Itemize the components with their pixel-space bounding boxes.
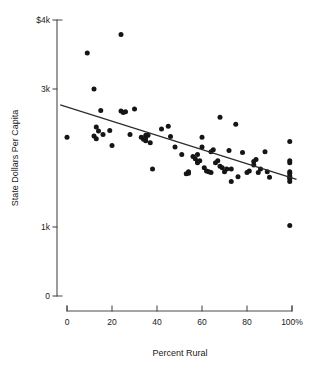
data-point: [159, 127, 164, 132]
x-tick-group: [67, 306, 292, 311]
data-points-layer: [65, 32, 293, 228]
data-point: [92, 87, 97, 92]
data-point: [110, 143, 115, 148]
x-axis: 020406080100%: [65, 306, 304, 327]
x-tick-label: 80: [242, 317, 252, 327]
data-point: [128, 132, 133, 137]
data-point: [287, 160, 292, 165]
data-point: [218, 115, 223, 120]
data-point: [101, 132, 106, 137]
y-tick-label: 1k: [41, 222, 51, 232]
x-tick-label: 20: [107, 317, 117, 327]
data-point: [173, 144, 178, 149]
data-point: [211, 147, 216, 152]
data-point: [107, 128, 112, 133]
data-point: [143, 138, 148, 143]
data-point: [150, 167, 155, 172]
y-axis: 01k3k$4k: [36, 15, 62, 301]
y-axis-title: State Dollars Per Capita: [10, 110, 20, 207]
y-tick-label: 0: [45, 291, 50, 301]
data-point: [123, 109, 128, 114]
data-point: [98, 108, 103, 113]
x-tick-labels: 020406080100%: [65, 317, 304, 327]
data-point: [195, 152, 200, 157]
data-point: [119, 32, 124, 37]
data-point: [179, 152, 184, 157]
data-point: [168, 134, 173, 139]
y-axis-line: [57, 20, 62, 296]
data-point: [186, 171, 191, 176]
trend-line: [60, 105, 296, 180]
y-tick-group: [53, 20, 57, 296]
data-point: [215, 158, 220, 163]
data-point: [287, 139, 292, 144]
data-point: [65, 135, 70, 140]
x-tick-label: 0: [65, 317, 70, 327]
x-axis-line: [67, 306, 292, 311]
x-tick-label: 60: [197, 317, 207, 327]
data-point: [287, 223, 292, 228]
data-point: [132, 107, 137, 112]
scatter-chart: 01k3k$4k 020406080100% Percent Rural Sta…: [0, 0, 314, 375]
data-point: [224, 167, 229, 172]
data-point: [287, 179, 292, 184]
y-tick-labels: 01k3k$4k: [36, 15, 50, 301]
x-axis-title: Percent Rural: [152, 348, 207, 358]
y-tick-label: 3k: [41, 84, 51, 94]
data-point: [247, 169, 252, 174]
data-point: [96, 129, 101, 134]
data-point: [254, 157, 259, 162]
data-point: [148, 140, 153, 145]
x-tick-label: 40: [152, 317, 162, 327]
data-point: [227, 148, 232, 153]
data-point: [233, 122, 238, 127]
data-point: [200, 135, 205, 140]
data-point: [94, 136, 99, 141]
y-tick-label: $4k: [36, 15, 50, 25]
data-point: [229, 179, 234, 184]
data-point: [166, 124, 171, 129]
data-point: [236, 174, 241, 179]
data-point: [229, 167, 234, 172]
data-point: [209, 170, 214, 175]
data-point: [197, 158, 202, 163]
chart-canvas: 01k3k$4k 020406080100% Percent Rural Sta…: [0, 0, 314, 375]
x-tick-label: 100%: [281, 317, 303, 327]
data-point: [85, 51, 90, 56]
data-point: [263, 149, 268, 154]
data-point: [240, 150, 245, 155]
data-point: [267, 175, 272, 180]
